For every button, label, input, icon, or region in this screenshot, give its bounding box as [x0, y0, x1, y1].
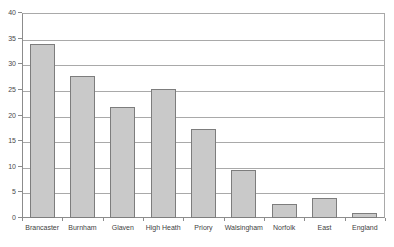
bar [110, 107, 135, 218]
bar [231, 170, 256, 218]
x-tick-mark [183, 218, 184, 221]
x-tick-mark [264, 218, 265, 221]
bar [30, 44, 55, 218]
bar [151, 89, 176, 218]
y-tick-label: 20 [8, 111, 16, 120]
chart-title: Second homes as % of all stock [0, 0, 394, 3]
x-axis-label: Brancaster [22, 223, 62, 233]
bar [191, 129, 216, 218]
chart-title-prefix: Second homes [137, 0, 195, 1]
x-tick-mark [22, 218, 23, 221]
y-tick-label: 35 [8, 34, 16, 43]
x-tick-mark [62, 218, 63, 221]
x-axis-label: Norfolk [264, 223, 304, 233]
y-tick-label: 25 [8, 85, 16, 94]
y-tick-label: 30 [8, 59, 16, 68]
bars-layer [22, 13, 385, 218]
y-tick-label: 10 [8, 162, 16, 171]
x-axis-label: Burnham [62, 223, 102, 233]
x-axis-label: East [304, 223, 344, 233]
x-axis-ticks [22, 218, 385, 222]
x-tick-mark [385, 218, 386, 221]
bar [312, 198, 337, 218]
x-axis-label: England [345, 223, 385, 233]
x-axis-labels: BrancasterBurnhamGlavenHigh HeathPrioryW… [22, 223, 385, 237]
x-axis-label: High Heath [143, 223, 183, 233]
x-axis-label: Walsingham [224, 223, 264, 233]
y-axis: 0510152025303540 [0, 13, 22, 219]
bar-chart-figure: Second homes as % of all stock 051015202… [0, 0, 394, 247]
x-axis-label: Glaven [103, 223, 143, 233]
y-tick-label: 40 [8, 8, 16, 17]
y-tick-label: 15 [8, 136, 16, 145]
x-tick-mark [304, 218, 305, 221]
x-tick-mark [224, 218, 225, 221]
y-tick-label: 0 [12, 213, 16, 222]
x-tick-mark [143, 218, 144, 221]
x-tick-mark [345, 218, 346, 221]
x-axis-label: Priory [183, 223, 223, 233]
bar [272, 204, 297, 218]
bar [70, 76, 95, 218]
x-tick-mark [103, 218, 104, 221]
y-tick-label: 5 [12, 187, 16, 196]
chart-title-tail: as % of all stock [195, 0, 257, 1]
